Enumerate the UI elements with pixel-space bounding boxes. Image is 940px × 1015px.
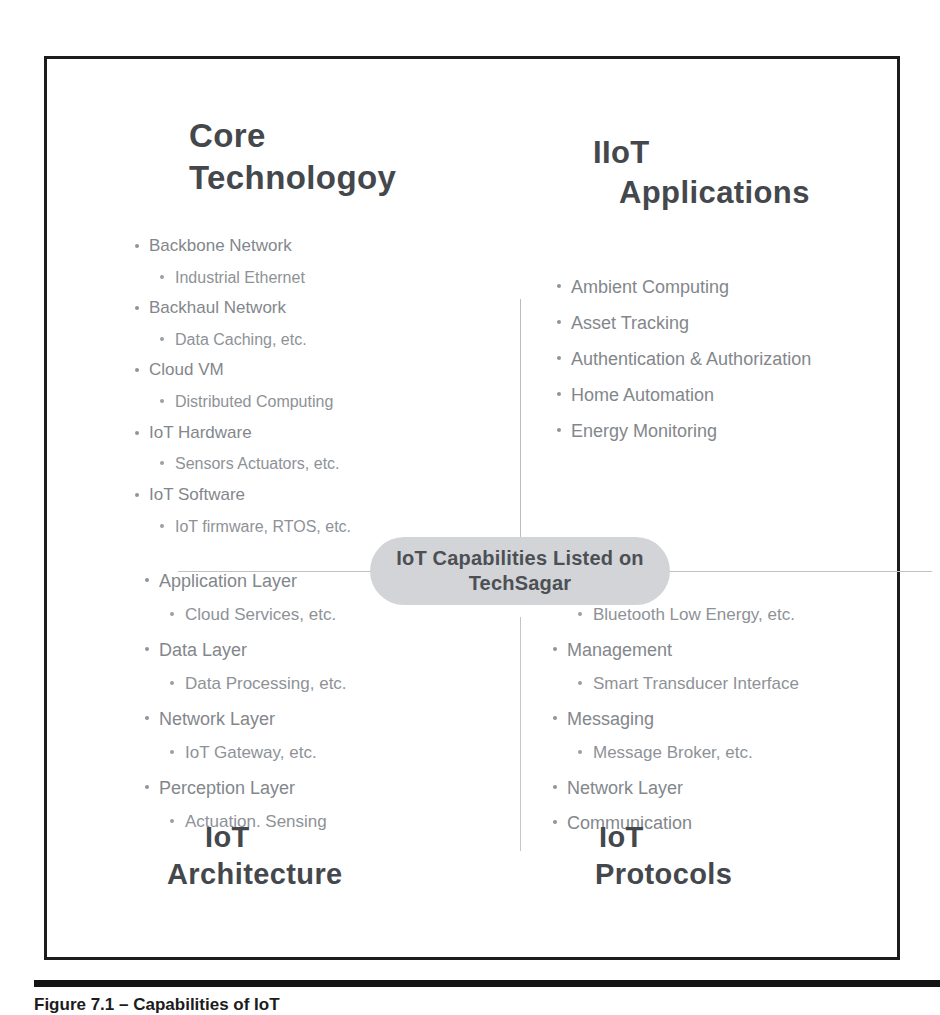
- heading-line-2: Architecture: [167, 856, 343, 893]
- iiot-applications-list: Ambient Computing Asset Tracking Authent…: [553, 275, 811, 456]
- list-item: Sensors Actuators, etc.: [157, 453, 351, 474]
- list-item: Application Layer: [141, 569, 347, 593]
- list-item: Message Broker, etc.: [575, 742, 799, 765]
- center-badge-line-2: TechSagar: [469, 572, 572, 594]
- center-badge-text: IoT Capabilities Listed on TechSagar: [386, 546, 653, 596]
- list-item: Energy Monitoring: [553, 419, 811, 443]
- heading-line-2: Protocols: [595, 856, 732, 893]
- heading-line-1: Core: [189, 117, 266, 154]
- heading-line-1: IoT: [599, 821, 644, 853]
- list-item: IoT Software: [131, 484, 351, 507]
- list-item: Messaging: [549, 707, 799, 731]
- quadrant-iiot-applications: IIoT Applications Ambient Computing Asse…: [517, 89, 897, 519]
- figure-caption: Figure 7.1 – Capabilities of IoT: [34, 995, 914, 1015]
- quadrant-iot-protocols-heading: IoT Protocols: [517, 819, 732, 893]
- quadrant-core-technology-heading: Core Technologoy: [107, 115, 396, 199]
- list-item: Bluetooth Low Energy, etc.: [575, 604, 799, 627]
- list-item: Management: [549, 638, 799, 662]
- list-item: Asset Tracking: [553, 311, 811, 335]
- list-item: Backhaul Network: [131, 297, 351, 320]
- heading-line-2: Applications: [619, 173, 810, 213]
- core-technology-list: Backbone Network Industrial Ethernet Bac…: [131, 235, 351, 546]
- heading-line-2: Technologoy: [189, 157, 396, 199]
- heading-line-1: IoT: [205, 821, 250, 853]
- list-item: Industrial Ethernet: [157, 267, 351, 288]
- list-item: Cloud Services, etc.: [167, 604, 347, 627]
- list-item: Data Layer: [141, 638, 347, 662]
- heading-line-1: IIoT: [593, 135, 650, 170]
- list-item: Data Caching, etc.: [157, 329, 351, 350]
- iot-architecture-list: Application Layer Cloud Services, etc. D…: [141, 569, 347, 845]
- list-item: IoT Gateway, etc.: [167, 742, 347, 765]
- list-item: IoT Hardware: [131, 422, 351, 445]
- list-item: Distributed Computing: [157, 391, 351, 412]
- quadrant-core-technology: Core Technologoy Backbone Network Indust…: [107, 89, 507, 519]
- list-item: Data Processing, etc.: [167, 673, 347, 696]
- center-badge: IoT Capabilities Listed on TechSagar: [370, 537, 670, 605]
- list-item: Authentication & Authorization: [553, 347, 811, 371]
- figure-frame: Core Technologoy Backbone Network Indust…: [44, 56, 900, 960]
- list-item: Network Layer: [141, 707, 347, 731]
- quadrant-iiot-applications-heading: IIoT Applications: [517, 133, 810, 212]
- iot-protocols-list: Data Link Bluetooth Low Energy, etc. Man…: [549, 569, 799, 846]
- list-item: Ambient Computing: [553, 275, 811, 299]
- center-badge-line-1: IoT Capabilities Listed on: [396, 547, 643, 569]
- quadrant-iot-architecture-heading: IoT Architecture: [107, 819, 343, 893]
- list-item: Cloud VM: [131, 359, 351, 382]
- list-item: Smart Transducer Interface: [575, 673, 799, 696]
- list-item: Backbone Network: [131, 235, 351, 258]
- list-item: Network Layer: [549, 776, 799, 800]
- caption-rule: [34, 980, 940, 987]
- list-item: Home Automation: [553, 383, 811, 407]
- list-item: Perception Layer: [141, 776, 347, 800]
